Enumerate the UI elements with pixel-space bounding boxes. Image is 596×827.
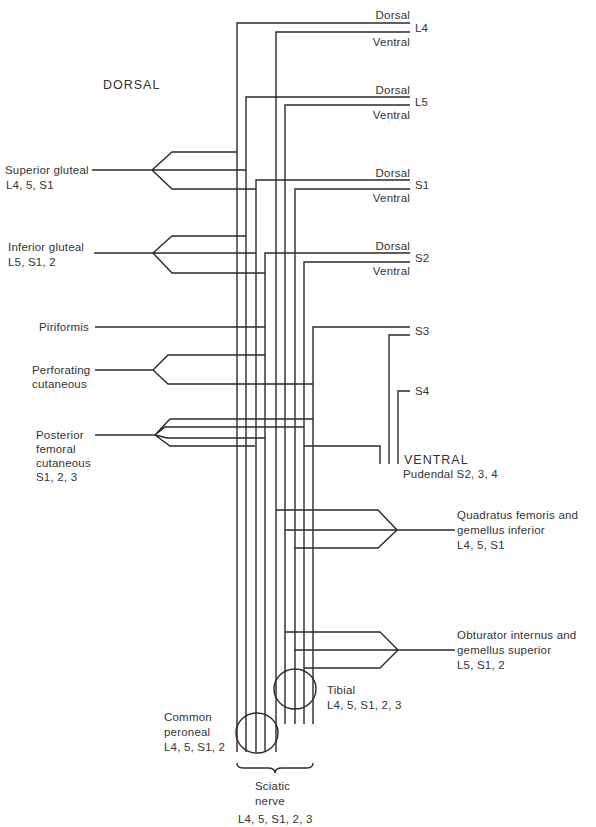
tibial-label: Tibial <box>327 683 355 697</box>
inferior-gluteal-label: Inferior gluteal <box>8 240 84 254</box>
l4-dorsal-division <box>237 23 410 752</box>
s1-ventral-label: Ventral <box>355 191 410 205</box>
common-peroneal-label: Common <box>164 710 212 724</box>
perforating-cutaneous-nerve <box>95 355 313 384</box>
quadratus-femoris-nerve <box>276 510 455 548</box>
s3-branch-pudendal <box>389 335 410 464</box>
common-peroneal-label-2: peroneal <box>164 725 210 739</box>
l4-root-label: L4 <box>415 21 428 35</box>
pudendal-label: Pudendal S2, 3, 4 <box>403 467 498 481</box>
posterior-femoral-cutaneous-label-3: cutaneous <box>36 456 91 470</box>
perforating-cutaneous-label-2: cutaneous <box>32 377 87 391</box>
sciatic-roots: L4, 5, S1, 2, 3 <box>238 812 313 826</box>
pudendal-branch-s2 <box>304 446 380 464</box>
s2-ventral-label: Ventral <box>355 264 410 278</box>
posterior-femoral-cutaneous-nerve <box>95 419 313 446</box>
superior-gluteal-label: Superior gluteal <box>5 163 89 177</box>
obturator-internus-label-2: gemellus superior <box>457 643 551 657</box>
sciatic-brace <box>237 763 313 773</box>
common-peroneal-roots: L4, 5, S1, 2 <box>164 740 225 754</box>
sciatic-label-2: nerve <box>255 794 285 808</box>
quadratus-femoris-label-2: gemellus inferior <box>457 523 545 537</box>
inferior-gluteal-roots: L5, S1, 2 <box>8 255 56 269</box>
l4-ventral-label: Ventral <box>355 35 410 49</box>
posterior-femoral-cutaneous-roots: S1, 2, 3 <box>36 470 77 484</box>
s1-root-label: S1 <box>415 178 429 192</box>
s2-dorsal-division <box>265 253 410 752</box>
quadratus-femoris-label: Quadratus femoris and <box>457 508 578 522</box>
s3-root-label: S3 <box>415 324 429 338</box>
obturator-internus-nerve <box>285 632 455 668</box>
tibial-roots: L4, 5, S1, 2, 3 <box>327 698 402 712</box>
l5-root-label: L5 <box>415 95 428 109</box>
s2-dorsal-label: Dorsal <box>360 239 410 253</box>
obturator-internus-roots: L5, S1, 2 <box>457 658 505 672</box>
superior-gluteal-nerve <box>92 152 256 189</box>
l4-dorsal-label: Dorsal <box>360 8 410 22</box>
s3-branch-sciatic <box>313 327 410 724</box>
l5-ventral-label: Ventral <box>355 108 410 122</box>
sciatic-label: Sciatic <box>255 779 290 793</box>
dorsal-region-label: DORSAL <box>103 78 160 92</box>
superior-gluteal-roots: L4, 5, S1 <box>6 178 54 192</box>
piriformis-label: Piriformis <box>39 320 89 334</box>
posterior-femoral-cutaneous-label: Posterior <box>36 428 84 442</box>
quadratus-femoris-roots: L4, 5, S1 <box>457 538 505 552</box>
common-peroneal-ellipse <box>236 713 278 753</box>
l5-dorsal-label: Dorsal <box>360 83 410 97</box>
s2-root-label: S2 <box>415 251 429 265</box>
plexus-wiring-diagram <box>0 0 596 827</box>
obturator-internus-label: Obturator internus and <box>457 628 576 642</box>
s4-root-label: S4 <box>415 384 429 398</box>
l4-ventral-division <box>276 32 410 724</box>
perforating-cutaneous-label: Perforating <box>32 363 90 377</box>
ventral-region-label: VENTRAL <box>404 453 469 467</box>
s1-dorsal-label: Dorsal <box>360 166 410 180</box>
posterior-femoral-cutaneous-label-2: femoral <box>36 442 76 456</box>
inferior-gluteal-nerve <box>94 236 265 273</box>
